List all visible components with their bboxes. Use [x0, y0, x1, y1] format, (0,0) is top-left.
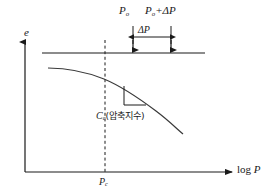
x-axis-log-text: log	[237, 163, 251, 175]
pc-tick-label: Pc	[99, 177, 108, 188]
po-plus-delta-p-label: Po+ΔP	[145, 5, 176, 17]
po-subscript: o	[126, 10, 129, 17]
consolidation-curve-figure: e Po Po+ΔP ΔP Cc(압축지수) log P Pc	[0, 0, 276, 196]
compression-index-label: Cc(압축지수)	[96, 111, 145, 122]
po-plus-tail: +ΔP	[155, 4, 176, 16]
pc-subscript: c	[105, 180, 108, 187]
cc-symbol: C	[96, 110, 103, 121]
po-plus-symbol: P	[145, 4, 152, 16]
po-label: Po	[119, 5, 129, 17]
x-axis-p-symbol: P	[251, 163, 260, 175]
consolidation-curve	[48, 68, 183, 134]
po-symbol: P	[119, 4, 126, 16]
x-axis-label: log P	[237, 164, 261, 175]
delta-p-label: ΔP	[138, 25, 150, 35]
y-axis-label: e	[24, 27, 29, 38]
cc-korean-text: (압축지수)	[105, 110, 144, 121]
